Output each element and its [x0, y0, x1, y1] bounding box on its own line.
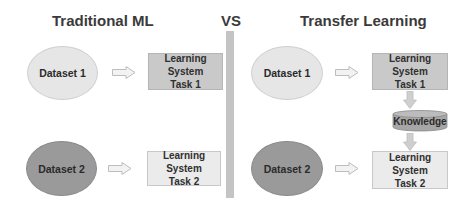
box-line-2: Task 1	[170, 78, 200, 91]
traditional-learning-system-task-2: Learning System Task 2	[147, 151, 221, 186]
traditional-learning-system-task-1: Learning System Task 1	[148, 53, 223, 90]
arrow-down-icon	[403, 91, 417, 109]
box-line-1: Learning System	[373, 151, 447, 177]
transfer-learning-title: Transfer Learning	[300, 12, 427, 29]
transfer-dataset-1: Dataset 1	[251, 46, 323, 100]
box-line-1: Learning System	[148, 149, 220, 175]
arrow-right-icon	[335, 162, 359, 175]
box-line-1: Learning System	[373, 52, 447, 78]
transfer-dataset-2-label: Dataset 2	[264, 163, 311, 175]
vs-label: VS	[220, 12, 242, 29]
traditional-ml-title: Traditional ML	[52, 12, 154, 29]
arrow-right-icon	[335, 66, 359, 79]
knowledge-store: Knowledge	[392, 110, 448, 132]
transfer-learning-system-task-1: Learning System Task 1	[372, 53, 448, 90]
transfer-dataset-2: Dataset 2	[251, 141, 323, 196]
traditional-dataset-2-label: Dataset 2	[38, 163, 85, 175]
box-line-2: Task 1	[395, 78, 425, 91]
transfer-dataset-1-label: Dataset 1	[264, 67, 311, 79]
box-line-1: Learning System	[149, 52, 222, 78]
traditional-dataset-1: Dataset 1	[27, 46, 98, 100]
box-line-2: Task 2	[395, 177, 425, 190]
traditional-dataset-2: Dataset 2	[26, 141, 97, 196]
arrow-right-icon	[108, 162, 132, 175]
transfer-learning-system-task-2: Learning System Task 2	[372, 151, 448, 189]
knowledge-label: Knowledge	[392, 116, 448, 127]
arrow-right-icon	[112, 66, 136, 79]
arrow-down-icon	[403, 133, 417, 151]
traditional-dataset-1-label: Dataset 1	[39, 67, 86, 79]
vertical-separator	[226, 31, 234, 198]
box-line-2: Task 2	[169, 175, 199, 188]
